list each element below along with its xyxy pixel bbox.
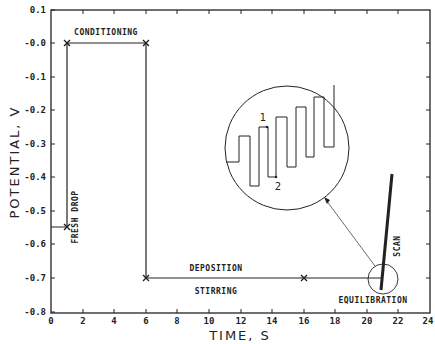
x-tick-label: 10 [204, 316, 215, 326]
annotation-equilibration: EQUILIBRATION [338, 296, 407, 305]
inset-label-2: 2 [275, 181, 281, 192]
chart: 0.1 -0.0 -0.1 -0.2 -0.3 -0.4 -0.5 -0.6 -… [0, 0, 435, 344]
annotation-conditioning: CONDITIONING [74, 28, 138, 37]
x-tick-label: 6 [143, 316, 148, 326]
x-tick-label: 20 [362, 316, 373, 326]
x-axis-title: TIME, S [208, 328, 271, 343]
y-tick-label: 0.1 [30, 5, 46, 15]
x-tick-label: 16 [299, 316, 310, 326]
x-tick-label: 4 [111, 316, 117, 326]
x-tick-label: 22 [393, 316, 404, 326]
inset-magnified-scan: 1 2 [225, 85, 349, 210]
y-tick-label: -0.6 [24, 239, 46, 249]
x-tick-label: 2 [80, 316, 85, 326]
annotation-deposition: DEPOSITION [189, 264, 242, 273]
y-tick-label: -0.7 [24, 273, 46, 283]
pointer-arrow [324, 197, 375, 266]
y-tick-label: -0.3 [24, 139, 46, 149]
y-tick-label: -0.1 [24, 72, 46, 82]
annotation-stirring: STIRRING [195, 287, 238, 296]
y-tick-label: -0.8 [24, 307, 46, 317]
y-tick-label: -0.4 [24, 172, 46, 182]
x-tick-label: 14 [267, 316, 278, 326]
x-tick-label: 0 [48, 316, 53, 326]
inset-label-1: 1 [260, 112, 266, 123]
x-tick-label: 24 [423, 316, 434, 326]
x-tick-label: 12 [236, 316, 247, 326]
y-tick-label: -0.2 [24, 105, 46, 115]
x-tick-label: 8 [174, 316, 179, 326]
y-tick-label: -0.5 [24, 206, 46, 216]
x-tick-label: 18 [330, 316, 341, 326]
y-axis-title: POTENTIAL, V [7, 105, 22, 218]
annotation-scan: SCAN [393, 235, 402, 256]
annotation-fresh-drop: FRESH DROP [71, 190, 80, 243]
y-tick-label: -0.0 [24, 38, 46, 48]
